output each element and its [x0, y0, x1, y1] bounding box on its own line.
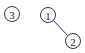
- node-3-label: 3: [9, 9, 15, 21]
- node-1: 1: [41, 8, 56, 23]
- node-3: 3: [5, 7, 20, 22]
- node-1-label: 1: [45, 10, 51, 22]
- node-2-label: 2: [70, 36, 76, 48]
- edge-1-2: [54, 21, 68, 36]
- graph-diagram: 3 1 2: [0, 0, 85, 53]
- node-2: 2: [66, 34, 81, 49]
